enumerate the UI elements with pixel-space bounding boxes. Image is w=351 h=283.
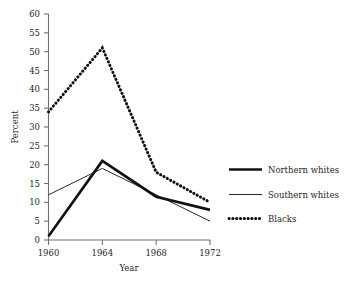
- y-tick-label: 0: [35, 235, 40, 245]
- y-tick-label: 30: [29, 122, 40, 132]
- y-tick-label: 45: [29, 66, 40, 76]
- y-tick-label: 5: [35, 216, 40, 226]
- y-tick-label: 55: [29, 28, 40, 38]
- y-tick-label: 10: [29, 197, 40, 207]
- chart-legend: Northern whites Southern whites Blacks: [229, 165, 339, 224]
- x-tick-label: 1968: [145, 248, 167, 258]
- y-tick-label: 25: [29, 141, 40, 151]
- y-tick-label: 20: [29, 160, 40, 170]
- x-tick-label: 1964: [91, 248, 113, 258]
- y-axis-title: Percent: [10, 110, 20, 144]
- x-axis-title: Year: [118, 263, 139, 273]
- series-line-southern-whites: [49, 168, 211, 221]
- x-axis-ticks: [49, 240, 211, 245]
- y-tick-label: 40: [29, 84, 40, 94]
- legend-label: Blacks: [268, 214, 296, 224]
- legend-item-southern-whites[interactable]: Southern whites: [229, 190, 339, 200]
- legend-item-northern-whites[interactable]: Northern whites: [229, 165, 339, 175]
- x-tick-label: 1960: [38, 248, 60, 258]
- legend-label: Northern whites: [268, 165, 339, 175]
- y-tick-label: 50: [29, 47, 40, 57]
- chart-figure: 60 55 50 45 40 35 30 25 20 15 10 5 0 196…: [0, 0, 351, 283]
- legend-label: Southern whites: [268, 190, 339, 200]
- x-tick-label: 1972: [199, 248, 221, 258]
- y-tick-label: 60: [29, 9, 40, 19]
- series-line-northern-whites: [49, 161, 211, 236]
- y-tick-label: 35: [29, 103, 40, 113]
- y-tick-label: 15: [29, 179, 40, 189]
- line-chart: 60 55 50 45 40 35 30 25 20 15 10 5 0 196…: [0, 0, 351, 283]
- y-axis-ticks: [44, 14, 49, 240]
- legend-item-blacks[interactable]: Blacks: [229, 214, 296, 224]
